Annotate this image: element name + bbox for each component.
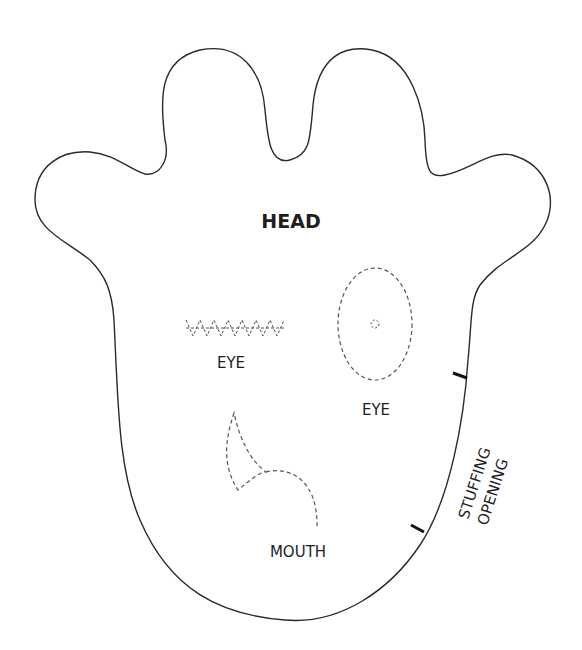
stuffing-tick-bottom <box>411 525 424 532</box>
mouth-dashed-outline <box>227 413 266 490</box>
right-eye-pupil-mark <box>371 320 379 328</box>
stuffing-tick-top <box>453 373 467 378</box>
mouth-label: MOUTH <box>270 543 326 561</box>
left-eye-label: EYE <box>217 354 245 372</box>
head-outline <box>35 49 550 621</box>
right-eye-label: EYE <box>362 401 390 419</box>
left-eye-closed-stitch <box>186 320 284 336</box>
piece-title: HEAD <box>261 210 320 232</box>
mouth-dashed-curve <box>266 471 317 527</box>
head-pattern-diagram: HEAD EYE EYE MOUTH STUFFING OPENING <box>0 0 582 650</box>
right-eye-oval <box>338 268 412 380</box>
